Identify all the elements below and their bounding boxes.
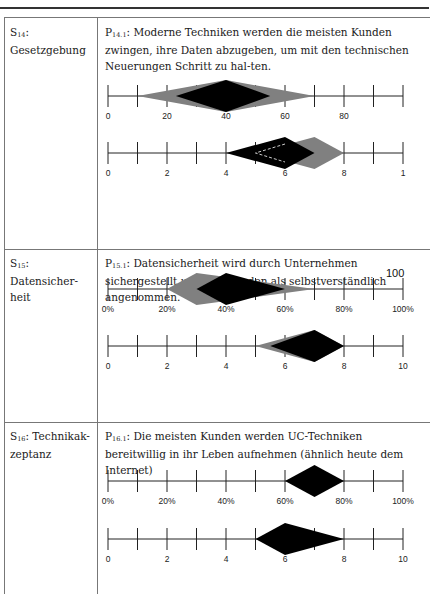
projection-statement: P15.1: Datensicherheit wird durch Untern…	[105, 255, 425, 305]
scale-tick-label: 8	[342, 168, 347, 178]
scale-tick-label: 6	[283, 554, 288, 564]
scale-tick-label: 6	[283, 168, 288, 178]
scale-tick-label: 0	[106, 554, 111, 564]
scale-tick-label: 80%	[335, 496, 352, 506]
scale-tick-label: 60	[280, 111, 289, 121]
scale-tick-label: 0%	[102, 304, 114, 314]
scale-tick-label: 6	[283, 361, 288, 371]
scale-tick-label: 20	[162, 111, 171, 121]
scale-tick-label: 40	[221, 111, 230, 121]
scale-tick-label: 60%	[276, 496, 293, 506]
scale-tick-label: 2	[165, 554, 170, 564]
scale-tick-label: 1	[401, 168, 406, 178]
scale-tick-label: 10	[398, 554, 407, 564]
scale-tick-label: 0	[106, 361, 111, 371]
scale-tick-label: 100%	[392, 496, 414, 506]
scenario-label: S16: Technikak-zeptanz	[10, 428, 94, 462]
scale-tick-label: 20%	[158, 496, 175, 506]
scale-tick-label: 4	[224, 361, 229, 371]
table-row-s16: S16: Technikak-zeptanz P16.1: Die meiste…	[5, 422, 430, 598]
scale-tick-label: 8	[342, 554, 347, 564]
top-rule	[0, 7, 429, 9]
scenario-label: S14: Gesetzgebung	[10, 24, 94, 58]
scale-tick-label: 60%	[276, 304, 293, 314]
stray-scale-label: 100	[386, 267, 404, 279]
scale-tick-label: 0%	[102, 496, 114, 506]
scale-tick-label: 0	[106, 168, 111, 178]
scale-tick-label: 4	[224, 168, 229, 178]
scale-tick-label: 0	[106, 111, 111, 121]
scenario-label: S15: Datensicher-heit	[10, 255, 94, 305]
scale-tick-label: 2	[165, 361, 170, 371]
scale-tick-label: 20%	[158, 304, 175, 314]
scale-tick-label: 8	[342, 361, 347, 371]
scale-tick-label: 2	[165, 168, 170, 178]
table-row-s15: S15: Datensicher-heit P15.1: Datensicher…	[5, 249, 430, 423]
scale-tick-label: 80%	[335, 304, 352, 314]
projection-statement: P16.1: Die meisten Kunden werden UC-Tech…	[105, 428, 425, 478]
scale-tick-label: 40%	[217, 304, 234, 314]
scale-tick-label: 10	[398, 361, 407, 371]
scale-tick-label: 4	[224, 554, 229, 564]
scale-tick-label: 100%	[392, 304, 414, 314]
scale-tick-label: 80	[339, 111, 348, 121]
table-row-s14: S14: Gesetzgebung P14.1: Moderne Technik…	[5, 18, 430, 250]
projection-statement: P14.1: Moderne Techniken werden die meis…	[105, 24, 425, 74]
scale-tick-label: 40%	[217, 496, 234, 506]
